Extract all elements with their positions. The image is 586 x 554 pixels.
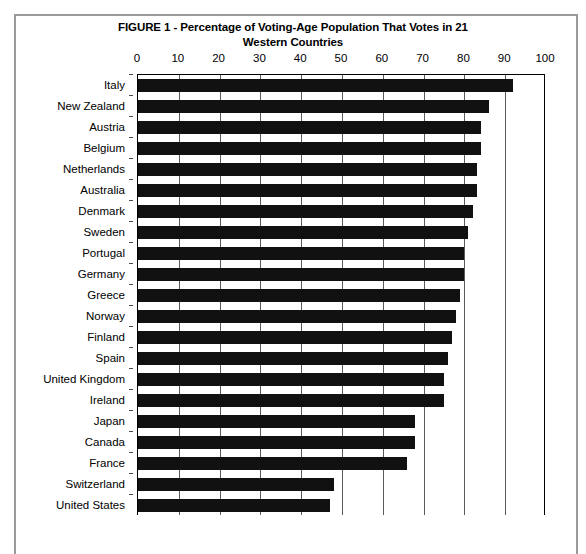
- bar: [138, 121, 481, 134]
- bar-row: [138, 436, 544, 449]
- x-tick-label: 30: [253, 52, 266, 64]
- bar: [138, 247, 464, 260]
- plot-area: [137, 74, 545, 515]
- bar: [138, 310, 456, 323]
- y-tick-mark: [129, 347, 133, 348]
- y-tick-mark: [129, 95, 133, 96]
- bar-row: [138, 100, 544, 113]
- bar-row: [138, 457, 544, 470]
- y-tick-mark: [129, 242, 133, 243]
- y-tick-mark: [129, 116, 133, 117]
- bar: [138, 457, 407, 470]
- bar: [138, 436, 415, 449]
- y-tick-mark: [129, 389, 133, 390]
- y-tick-mark: [129, 452, 133, 453]
- y-tick-mark: [129, 179, 133, 180]
- bar-row: [138, 79, 544, 92]
- bar: [138, 289, 460, 302]
- bar: [138, 205, 473, 218]
- bar-row: [138, 121, 544, 134]
- y-tick-label: Finland: [87, 331, 125, 343]
- x-tick-label: 10: [171, 52, 184, 64]
- y-tick-mark: [129, 200, 133, 201]
- y-tick-mark: [129, 410, 133, 411]
- bar-row: [138, 331, 544, 344]
- y-tick-label: Norway: [86, 310, 125, 322]
- y-tick-mark: [129, 74, 133, 75]
- y-tick-label: Portugal: [82, 247, 125, 259]
- y-tick-mark: [129, 494, 133, 495]
- bar: [138, 142, 481, 155]
- bar: [138, 373, 444, 386]
- y-tick-mark: [129, 158, 133, 159]
- bar-row: [138, 373, 544, 386]
- chart-title: FIGURE 1 - Percentage of Voting-Age Popu…: [30, 20, 556, 50]
- bar: [138, 499, 330, 512]
- bar-row: [138, 394, 544, 407]
- x-tick-label: 50: [335, 52, 348, 64]
- y-tick-mark: [129, 263, 133, 264]
- y-tick-label: Germany: [78, 268, 125, 280]
- bar-row: [138, 478, 544, 491]
- y-tick-mark: [129, 368, 133, 369]
- y-tick-label: United States: [56, 499, 125, 511]
- y-tick-label: Spain: [96, 352, 125, 364]
- bar-row: [138, 415, 544, 428]
- y-tick-mark: [129, 284, 133, 285]
- y-tick-mark: [129, 473, 133, 474]
- y-tick-label: Denmark: [78, 205, 125, 217]
- bar: [138, 79, 513, 92]
- x-tick-label: 20: [212, 52, 225, 64]
- bar-row: [138, 142, 544, 155]
- y-axis-category-labels: ItalyNew ZealandAustriaBelgiumNetherland…: [0, 74, 133, 515]
- y-tick-mark: [129, 305, 133, 306]
- bar: [138, 163, 477, 176]
- x-tick-label: 100: [535, 52, 554, 64]
- bar-row: [138, 499, 544, 512]
- y-tick-label: France: [89, 457, 125, 469]
- y-tick-label: New Zealand: [57, 100, 125, 112]
- y-tick-mark: [129, 431, 133, 432]
- bar: [138, 415, 415, 428]
- y-tick-label: Canada: [85, 436, 125, 448]
- bar: [138, 184, 477, 197]
- x-tick-label: 0: [134, 52, 140, 64]
- x-tick-label: 70: [416, 52, 429, 64]
- bar-row: [138, 310, 544, 323]
- y-tick-label: Australia: [80, 184, 125, 196]
- x-tick-label: 80: [457, 52, 470, 64]
- bar: [138, 100, 489, 113]
- y-tick-label: Japan: [94, 415, 125, 427]
- bar-row: [138, 184, 544, 197]
- y-tick-mark: [129, 326, 133, 327]
- y-tick-label: United Kingdom: [43, 373, 125, 385]
- bar-row: [138, 226, 544, 239]
- bar: [138, 331, 452, 344]
- bar: [138, 352, 448, 365]
- bars: [138, 75, 544, 515]
- x-tick-label: 90: [498, 52, 511, 64]
- bar: [138, 226, 468, 239]
- chart-title-line-1: FIGURE 1 - Percentage of Voting-Age Popu…: [30, 20, 556, 35]
- x-axis-tick-labels: 0102030405060708090100: [0, 52, 586, 68]
- y-tick-label: Netherlands: [63, 163, 125, 175]
- y-tick-mark: [129, 137, 133, 138]
- x-tick-label: 40: [294, 52, 307, 64]
- y-tick-label: Switzerland: [66, 478, 125, 490]
- y-tick-label: Ireland: [90, 394, 125, 406]
- y-tick-label: Austria: [89, 121, 125, 133]
- y-tick-label: Sweden: [83, 226, 125, 238]
- bar: [138, 478, 334, 491]
- bar-row: [138, 268, 544, 281]
- y-tick-label: Belgium: [83, 142, 125, 154]
- chart-title-line-2: Western Countries: [30, 35, 556, 50]
- x-tick-label: 60: [375, 52, 388, 64]
- bar-row: [138, 205, 544, 218]
- bar: [138, 394, 444, 407]
- bar-row: [138, 163, 544, 176]
- y-tick-label: Italy: [104, 79, 125, 91]
- bar-row: [138, 352, 544, 365]
- y-tick-mark: [129, 221, 133, 222]
- y-tick-label: Greece: [87, 289, 125, 301]
- bar-row: [138, 247, 544, 260]
